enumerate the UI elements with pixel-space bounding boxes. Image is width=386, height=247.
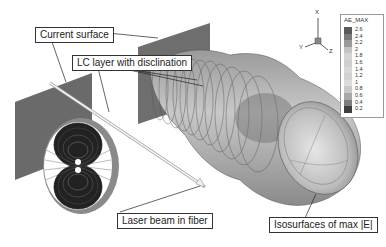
callout-laser-beam: Laser beam in fiber [117, 213, 213, 229]
legend-label: 1.6 [355, 59, 363, 66]
disclination-core-top [75, 159, 81, 165]
legend-label: 0.8 [355, 85, 363, 92]
legend-label: 2.4 [355, 33, 363, 40]
legend-swatch [344, 67, 352, 74]
legend-label: 1.4 [355, 66, 363, 73]
legend-labels: 2.6 2.4 2.2 2 1.8 1.6 1.4 1.2 1 0.8 0.6 … [355, 26, 363, 112]
axis-label-y: Y [299, 44, 303, 50]
axis-label-x: X [315, 9, 319, 15]
legend-label: 1.2 [355, 72, 363, 79]
legend-swatch [344, 100, 352, 107]
axis-origin-cube [315, 38, 321, 44]
legend-swatch [344, 53, 352, 60]
callout-lc-layer: LC layer with disclination [72, 55, 192, 71]
colorbar-legend: AE_MAX 2.6 2.4 2.2 2 1.8 1.6 1.4 1.2 1 0… [340, 14, 384, 118]
legend-swatch [344, 73, 352, 80]
legend-swatch [344, 40, 352, 47]
legend-swatch [344, 106, 352, 113]
legend-label: 2.6 [355, 26, 363, 33]
legend-swatch [344, 27, 352, 34]
callout-current-surface: Current surface [35, 27, 114, 43]
legend-label: 0.6 [355, 92, 363, 99]
legend-swatch [344, 80, 352, 87]
legend-label: 2 [355, 46, 363, 53]
legend-label: 1.8 [355, 52, 363, 59]
legend-swatch [344, 60, 352, 67]
legend-label: 1 [355, 79, 363, 86]
legend-colorbar [344, 27, 352, 113]
legend-swatch [344, 86, 352, 93]
axis-label-z: Z [329, 48, 333, 54]
legend-title: AE_MAX [344, 17, 368, 23]
legend-label: 2.2 [355, 39, 363, 46]
disclination-core-bottom [75, 167, 81, 173]
legend-label: 0.4 [355, 99, 363, 106]
axis-triad [305, 18, 328, 50]
legend-swatch [344, 47, 352, 54]
legend-swatch [344, 93, 352, 100]
legend-swatch [344, 34, 352, 41]
callout-isosurfaces: Isosurfaces of max |E| [269, 217, 378, 233]
legend-label: 0.2 [355, 105, 363, 112]
